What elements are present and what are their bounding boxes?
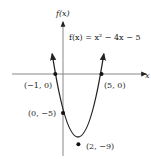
parabola-graph: f(x) x f(x) = x² − 4x − 5 (−1, 0) (5, 0)… xyxy=(0,0,151,159)
point-x-intercept-left xyxy=(53,72,57,76)
parabola-curve xyxy=(52,54,104,137)
label-x-intercept-left: (−1, 0) xyxy=(24,81,52,90)
point-x-intercept-right xyxy=(100,72,104,76)
label-x-intercept-right: (5, 0) xyxy=(104,81,126,90)
point-vertex xyxy=(76,142,80,146)
y-axis-label: f(x) xyxy=(55,9,70,18)
label-vertex: (2, −9) xyxy=(86,142,114,151)
label-y-intercept: (0, −5) xyxy=(28,109,56,118)
point-y-intercept xyxy=(61,111,65,115)
function-label: f(x) = x² − 4x − 5 xyxy=(69,33,141,42)
x-axis-label: x xyxy=(145,71,150,80)
